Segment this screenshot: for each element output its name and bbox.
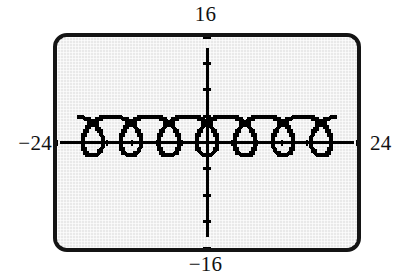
window-ymax-label: 16 <box>0 4 411 25</box>
window-ymin-label: −16 <box>0 254 411 275</box>
window-xmin-label: −24 <box>6 133 52 154</box>
graph-plot-area <box>57 37 357 248</box>
calculator-screen[interactable] <box>53 33 361 252</box>
window-xmax-label: 24 <box>370 133 410 154</box>
calculator-graph-figure: 16 −24 24 −16 <box>0 0 411 280</box>
